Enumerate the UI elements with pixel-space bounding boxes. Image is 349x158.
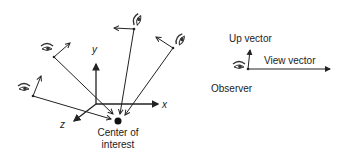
view-vector-3 xyxy=(120,29,134,114)
eye-icon xyxy=(233,62,245,69)
z-axis xyxy=(74,104,96,121)
up-vector-4 xyxy=(156,37,173,48)
up-vector-1 xyxy=(33,76,41,96)
camera-diagram: y x z Center of interest Up vecto xyxy=(0,0,349,158)
eye-icon xyxy=(132,13,143,27)
up-vector-label: Up vector xyxy=(229,33,272,44)
observer-1 xyxy=(18,76,111,119)
up-vector-2 xyxy=(54,43,70,57)
z-axis-label: z xyxy=(59,119,65,130)
center-of-interest-dot xyxy=(115,118,122,125)
observer-label: Observer xyxy=(211,83,253,94)
up-vector-legend xyxy=(248,50,250,69)
center-label-line2: interest xyxy=(102,139,135,150)
up-vector-3 xyxy=(114,28,134,29)
eye-icon xyxy=(174,33,186,47)
eye-icon xyxy=(41,44,53,51)
x-axis-label: x xyxy=(161,99,168,110)
center-label-line1: Center of xyxy=(97,127,138,138)
y-axis-label: y xyxy=(91,44,98,55)
observer-2 xyxy=(41,43,113,114)
eye-icon xyxy=(18,84,30,91)
view-vector-2 xyxy=(54,57,113,114)
observer-3 xyxy=(114,13,142,114)
view-vector-1 xyxy=(33,96,111,119)
observer-4 xyxy=(125,33,186,115)
view-vector-label: View vector xyxy=(264,55,316,66)
coordinate-axes xyxy=(74,64,158,121)
